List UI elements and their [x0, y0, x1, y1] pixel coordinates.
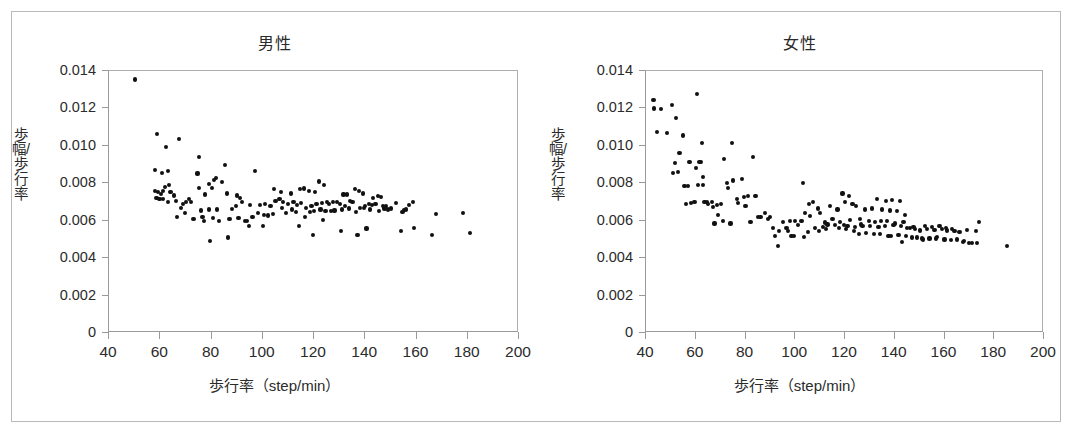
scatter-point — [970, 241, 974, 245]
scatter-point — [962, 239, 966, 243]
scatter-point — [332, 208, 336, 212]
scatter-point — [652, 106, 656, 110]
scatter-point — [777, 229, 781, 233]
scatter-point — [202, 219, 206, 223]
y-axis-tick-label: 0.004 — [34, 249, 96, 265]
figure-root: 男性 歩幅/歩行率 00.0020.0040.0060.0080.0100.01… — [0, 0, 1074, 435]
scatter-point — [279, 190, 283, 194]
x-axis-title-female: 歩行率（step/min） — [537, 374, 1062, 395]
x-axis-tick — [1043, 332, 1044, 339]
scatter-point — [294, 210, 298, 214]
x-axis-tick — [416, 332, 417, 339]
scatter-point — [864, 231, 868, 235]
y-axis-tick — [102, 70, 108, 71]
scatter-point — [217, 219, 221, 223]
scatter-point — [898, 199, 902, 203]
scatter-point — [412, 226, 416, 230]
scatter-point — [687, 160, 691, 164]
y-axis-tick — [102, 182, 108, 183]
y-axis-tick-label: 0.012 — [34, 99, 96, 115]
scatter-points-female — [646, 71, 1042, 331]
y-axis-tick-label: 0.010 — [34, 137, 96, 153]
scatter-point — [227, 217, 231, 221]
scatter-point — [889, 234, 893, 238]
scatter-point — [921, 237, 925, 241]
scatter-point — [386, 207, 390, 211]
scatter-point — [670, 103, 674, 107]
scatter-point — [697, 160, 701, 164]
scatter-point — [208, 239, 212, 243]
x-axis-tick — [944, 332, 945, 339]
scatter-point — [852, 229, 856, 233]
scatter-point — [816, 206, 820, 210]
scatter-point — [245, 219, 249, 223]
scatter-point — [266, 213, 270, 217]
scatter-point — [215, 207, 219, 211]
scatter-point — [854, 204, 858, 208]
scatter-point — [728, 221, 732, 225]
scatter-point — [915, 235, 919, 239]
scatter-point — [304, 206, 308, 210]
scatter-point — [434, 212, 438, 216]
y-axis-tick-label: 0.002 — [34, 287, 96, 303]
scatter-point — [808, 214, 812, 218]
scatter-point — [240, 200, 244, 204]
scatter-point — [730, 141, 734, 145]
x-axis-tick-label: 80 — [736, 343, 753, 361]
y-axis-tick-label: 0.006 — [34, 212, 96, 228]
scatter-point — [746, 194, 750, 198]
scatter-point — [883, 224, 887, 228]
scatter-point — [674, 116, 678, 120]
panel-male: 男性 歩幅/歩行率 00.0020.0040.0060.0080.0100.01… — [12, 12, 537, 422]
scatter-point — [781, 220, 785, 224]
scatter-point — [212, 178, 216, 182]
scatter-point — [890, 198, 894, 202]
scatter-point — [706, 202, 710, 206]
scatter-point — [317, 179, 321, 183]
scatter-point — [191, 217, 195, 221]
scatter-point — [407, 203, 411, 207]
y-axis-tick-label: 0.004 — [571, 249, 633, 265]
scatter-point — [673, 161, 677, 165]
x-axis-tick — [108, 332, 109, 339]
scatter-point — [694, 166, 698, 170]
scatter-point — [799, 219, 803, 223]
scatter-point — [223, 163, 227, 167]
scatter-point — [949, 238, 953, 242]
scatter-point — [164, 145, 168, 149]
scatter-point — [263, 202, 267, 206]
scatter-point — [918, 228, 922, 232]
scatter-point — [461, 211, 465, 215]
scatter-point — [824, 227, 828, 231]
scatter-point — [863, 207, 867, 211]
scatter-point — [362, 206, 366, 210]
y-axis-tick — [102, 295, 108, 296]
scatter-point — [303, 215, 307, 219]
scatter-point — [651, 98, 655, 102]
scatter-point — [858, 217, 862, 221]
y-axis-tick-label: 0.012 — [571, 99, 633, 115]
scatter-point — [686, 184, 690, 188]
scatter-point — [411, 200, 415, 204]
scatter-point — [284, 211, 288, 215]
scatter-point — [837, 226, 841, 230]
y-axis-tick — [639, 145, 645, 146]
scatter-point — [321, 218, 325, 222]
scatter-point — [932, 228, 936, 232]
x-axis-tick-label: 200 — [505, 343, 531, 361]
y-axis-tick — [639, 70, 645, 71]
scatter-point — [153, 168, 157, 172]
x-axis-tick — [467, 332, 468, 339]
x-axis-tick — [993, 332, 994, 339]
scatter-point — [786, 229, 790, 233]
scatter-point — [771, 226, 775, 230]
x-axis-tick-label: 140 — [881, 343, 907, 361]
scatter-point — [857, 232, 861, 236]
scatter-point — [975, 241, 979, 245]
y-axis-tick-label: 0.008 — [571, 174, 633, 190]
x-axis-tick — [159, 332, 160, 339]
x-axis-tick — [745, 332, 746, 339]
scatter-point — [368, 207, 372, 211]
scatter-point — [248, 203, 252, 207]
scatter-point — [379, 195, 383, 199]
